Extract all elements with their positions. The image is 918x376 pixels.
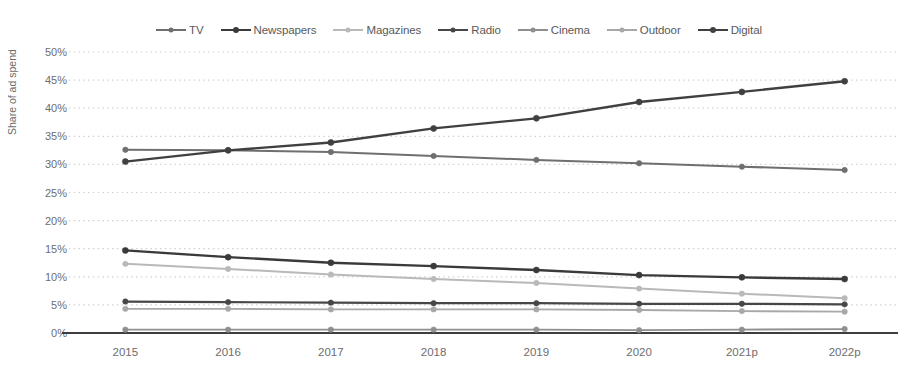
x-axis-tick-label: 2021p [707, 346, 777, 358]
x-axis-tick-label: 2017 [296, 346, 366, 358]
x-axis-tick-label: 2015 [90, 346, 160, 358]
x-axis-tick-label: 2018 [399, 346, 469, 358]
x-axis-tick-label: 2016 [193, 346, 263, 358]
x-axis-tick-label: 2022p [810, 346, 880, 358]
line-chart: TVNewspapersMagazinesRadioCinemaOutdoorD… [0, 0, 918, 376]
x-axis-tick-label: 2020 [604, 346, 674, 358]
x-axis-tick-labels: 2015201620172018201920202021p2022p [0, 0, 918, 376]
x-axis-tick-label: 2019 [501, 346, 571, 358]
